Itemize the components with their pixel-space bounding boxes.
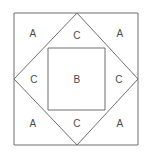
region-label-a-bottom-left: A bbox=[30, 118, 37, 129]
region-label-a-bottom-right: A bbox=[117, 118, 124, 129]
region-label-c-right: C bbox=[115, 74, 122, 85]
region-label-c-left: C bbox=[30, 74, 37, 85]
region-label-a-top-right: A bbox=[117, 28, 124, 39]
region-label-a-top-left: A bbox=[30, 28, 37, 39]
region-label-c-top: C bbox=[73, 30, 80, 41]
region-label-c-bottom: C bbox=[73, 118, 80, 129]
region-label-b-center: B bbox=[74, 74, 81, 85]
geometric-figure-container: A C A C B C A C A bbox=[0, 0, 152, 158]
geometric-figure-svg: A C A C B C A C A bbox=[0, 0, 152, 158]
